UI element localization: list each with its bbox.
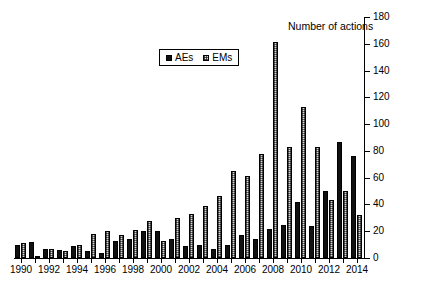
bar-ems-2011: [315, 147, 320, 258]
bar-ems-2014: [357, 215, 362, 258]
bar-aes-2009: [281, 225, 286, 258]
bar-aes-1991: [29, 242, 34, 258]
y-tick-40: [365, 204, 370, 205]
bar-group-2000: [155, 17, 169, 258]
bar-aes-2006: [239, 235, 244, 258]
bar-aes-1992: [43, 249, 48, 258]
bar-ems-1997: [119, 235, 124, 258]
y-tick-label-100: 100: [373, 119, 390, 129]
bar-group-1996: [99, 17, 113, 258]
bar-group-2012: [323, 17, 337, 258]
bar-group-2009: [281, 17, 295, 258]
bar-aes-1994: [71, 246, 76, 258]
x-tick-1999: [147, 259, 148, 263]
bar-aes-2007: [253, 239, 258, 258]
bar-group-2014: [351, 17, 365, 258]
x-tick-1990: [21, 259, 22, 263]
x-tick-2005: [231, 259, 232, 263]
bar-group-2011: [309, 17, 323, 258]
bar-ems-1994: [77, 245, 82, 258]
bar-group-1995: [85, 17, 99, 258]
y-tick-label-180: 180: [373, 12, 390, 22]
x-tick-1992: [49, 259, 50, 263]
bar-ems-2002: [189, 214, 194, 258]
bar-aes-2005: [225, 245, 230, 258]
bar-aes-2010: [295, 202, 300, 258]
bar-ems-2001: [175, 218, 180, 258]
x-tick-1997: [119, 259, 120, 263]
bar-aes-2011: [309, 226, 314, 258]
bar-aes-1995: [85, 251, 90, 258]
bar-ems-2004: [217, 196, 222, 258]
bar-group-1990: [15, 17, 29, 258]
bar-group-1994: [71, 17, 85, 258]
bar-group-2007: [253, 17, 267, 258]
x-tick-2014: [357, 259, 358, 263]
chart-screenshot: Number of actions AEs EMs 02040608010012…: [0, 0, 427, 291]
x-tick-1994: [77, 259, 78, 263]
x-tick-2010: [301, 259, 302, 263]
bar-ems-1998: [133, 230, 138, 258]
x-tick-2007: [259, 259, 260, 263]
bar-aes-2012: [323, 191, 328, 258]
bar-ems-2009: [287, 147, 292, 258]
x-tick-label-2014: 2014: [340, 264, 374, 275]
bar-aes-1990: [15, 245, 20, 258]
bar-ems-2007: [259, 154, 264, 258]
x-tick-1998: [133, 259, 134, 263]
bar-aes-2001: [169, 239, 174, 258]
y-tick-label-60: 60: [373, 173, 384, 183]
bar-group-1991: [29, 17, 43, 258]
bar-ems-2013: [343, 191, 348, 258]
bar-group-2006: [239, 17, 253, 258]
y-tick-label-40: 40: [373, 199, 384, 209]
y-tick-60: [365, 178, 370, 179]
bar-ems-2008: [273, 42, 278, 258]
bar-group-2002: [183, 17, 197, 258]
x-tick-2009: [287, 259, 288, 263]
y-tick-180: [365, 17, 370, 18]
x-tick-2008: [273, 259, 274, 263]
bar-aes-2002: [183, 246, 188, 258]
x-tick-2011: [315, 259, 316, 263]
bar-group-2003: [197, 17, 211, 258]
y-tick-0: [365, 258, 370, 259]
bar-group-2001: [169, 17, 183, 258]
bar-group-2005: [225, 17, 239, 258]
bar-aes-1998: [127, 239, 132, 258]
y-axis-line: [364, 17, 365, 259]
bar-group-1998: [127, 17, 141, 258]
bar-ems-2000: [161, 241, 166, 258]
bar-group-2008: [267, 17, 281, 258]
x-tick-1995: [91, 259, 92, 263]
bar-aes-2014: [351, 156, 356, 258]
bar-group-2010: [295, 17, 309, 258]
x-tick-2004: [217, 259, 218, 263]
y-tick-label-80: 80: [373, 146, 384, 156]
bar-group-1999: [141, 17, 155, 258]
bar-ems-2006: [245, 176, 250, 258]
x-tick-1996: [105, 259, 106, 263]
plot-area: [14, 17, 364, 258]
y-tick-label-160: 160: [373, 39, 390, 49]
bar-ems-1999: [147, 221, 152, 258]
y-tick-label-0: 0: [373, 253, 379, 263]
bar-ems-2010: [301, 107, 306, 258]
bar-aes-1999: [141, 231, 146, 258]
y-tick-label-120: 120: [373, 92, 390, 102]
bar-aes-1997: [113, 241, 118, 258]
bar-ems-2005: [231, 171, 236, 258]
bar-ems-1992: [49, 249, 54, 258]
y-tick-160: [365, 44, 370, 45]
bar-ems-1990: [21, 243, 26, 258]
x-tick-2000: [161, 259, 162, 263]
x-tick-1993: [63, 259, 64, 263]
x-tick-2003: [203, 259, 204, 263]
bar-aes-1993: [57, 250, 62, 258]
bar-group-1992: [43, 17, 57, 258]
bar-aes-2008: [267, 229, 272, 258]
y-tick-100: [365, 124, 370, 125]
y-tick-label-20: 20: [373, 226, 384, 236]
x-tick-2002: [189, 259, 190, 263]
y-tick-120: [365, 97, 370, 98]
